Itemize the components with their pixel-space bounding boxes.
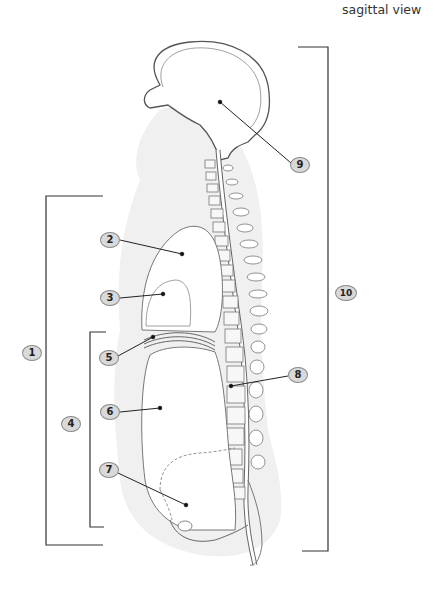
bracket-10 bbox=[298, 47, 328, 551]
callout-10: 10 bbox=[335, 285, 357, 301]
anatomy-illustration bbox=[0, 0, 435, 590]
callout-8: 8 bbox=[288, 367, 308, 383]
callout-3: 3 bbox=[100, 290, 120, 306]
callout-4: 4 bbox=[61, 416, 81, 432]
callout-2: 2 bbox=[100, 232, 120, 248]
callout-7: 7 bbox=[99, 462, 119, 478]
anatomy-diagram: sagittal view bbox=[0, 0, 435, 590]
bracket-1 bbox=[46, 196, 103, 545]
callout-5: 5 bbox=[99, 350, 119, 366]
bladder-outline bbox=[178, 521, 192, 531]
callout-1: 1 bbox=[22, 345, 42, 361]
callout-9: 9 bbox=[290, 157, 310, 173]
callout-6: 6 bbox=[100, 404, 120, 420]
